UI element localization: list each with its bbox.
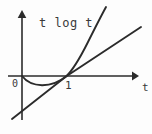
x-axis-arrow-icon [132,72,139,81]
curve-label-t-log-t: t log t [39,17,93,29]
curve-straight-line [12,27,141,119]
axis-label-t: t [142,82,149,93]
y-axis-arrow-icon [18,10,27,18]
axis-tick-label-one: 1 [65,80,72,91]
axis-label-origin: 0 [12,79,18,89]
tlogt-figure: t log t 0 1 t [0,0,152,134]
